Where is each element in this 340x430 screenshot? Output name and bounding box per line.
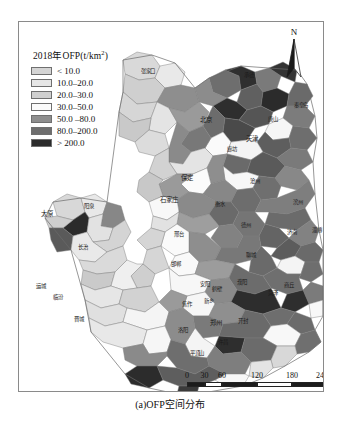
legend-label: 80.0–200.0 [57, 126, 98, 136]
legend-swatch [31, 103, 52, 112]
legend-title-tail: ) [105, 51, 108, 61]
legend-label: 50.0 –80.0 [57, 114, 95, 124]
scale-tick-label: 30 [201, 371, 209, 380]
place-label: 北京 [200, 115, 212, 124]
place-label: 滨州 [293, 198, 303, 206]
map-frame: 太原阳泉长治晋城运城临汾张家口北京天津承德唐山秦皇岛保定廊坊沧州石家庄衡水邢台邯… [18, 21, 324, 392]
legend-item[interactable]: 10.0–20.0 [31, 77, 108, 89]
place-label: 长治 [78, 243, 88, 251]
place-label: 新乡 [204, 297, 214, 305]
scale-bar-segment [187, 382, 205, 387]
legend-item[interactable]: 50.0 –80.0 [31, 113, 108, 125]
map-legend: 2018年OFP(t/km2) < 10.010.0–20.020.0–30.0… [31, 48, 108, 149]
legend-label: > 200.0 [57, 138, 85, 148]
legend-label: 30.0–50.0 [57, 102, 93, 112]
place-label: 济南 [287, 228, 297, 236]
legend-item[interactable]: 30.0–50.0 [31, 101, 108, 113]
scale-tick-label: 60 [218, 371, 226, 380]
north-arrow-icon [281, 37, 307, 79]
legend-swatch [31, 139, 52, 148]
legend-item[interactable]: > 200.0 [31, 137, 108, 149]
legend-item[interactable]: 80.0–200.0 [31, 125, 108, 137]
legend-swatch [31, 115, 52, 124]
scale-bar-labels: 03060120180240km [187, 371, 324, 382]
legend-title: 2018年OFP(t/km2) [33, 48, 108, 62]
place-label: 焦作 [182, 300, 192, 308]
scale-tick-label: 0 [185, 371, 189, 380]
scale-bar: 03060120180240km [187, 371, 324, 387]
place-label: 太原 [41, 209, 53, 218]
place-label: 阳泉 [84, 202, 94, 210]
place-label: 承德 [244, 71, 254, 79]
place-label: 运城 [36, 282, 46, 290]
place-label: 平顶山 [190, 349, 204, 357]
place-label: 晋城 [74, 315, 84, 323]
scale-tick-label: 180 [286, 371, 298, 380]
place-label: 临汾 [53, 293, 63, 301]
scale-bar-segment [222, 382, 257, 387]
legend-label: 20.0–30.0 [57, 90, 93, 100]
scale-tick-label: 120 [251, 371, 263, 380]
place-label: 聊城 [246, 251, 256, 259]
place-label: 沧州 [250, 177, 260, 185]
place-label: 淄博 [312, 226, 322, 234]
scale-tick-label: 240km [316, 371, 324, 380]
north-letter: N [281, 27, 307, 37]
place-label: 洛阳 [178, 326, 188, 334]
legend-swatch [31, 79, 52, 88]
place-label: 天津 [246, 134, 258, 143]
place-label: 濮阳 [237, 278, 247, 286]
place-label: 廊坊 [227, 145, 237, 153]
place-label: 安阳 [200, 280, 210, 288]
legend-swatch [31, 67, 52, 76]
county-polygon[interactable] [289, 126, 317, 150]
legend-rows: < 10.010.0–20.020.0–30.030.0–50.050.0 –8… [31, 65, 108, 149]
scale-bar-segment [257, 382, 292, 387]
place-label: 郑州 [210, 318, 222, 327]
legend-label: < 10.0 [57, 66, 80, 76]
place-label: 石家庄 [160, 195, 177, 204]
scale-bar-segments [187, 382, 324, 387]
place-label: 唐山 [268, 115, 278, 123]
place-label: 商丘 [284, 281, 294, 289]
legend-item[interactable]: < 10.0 [31, 65, 108, 77]
legend-label: 10.0–20.0 [57, 78, 93, 88]
place-label: 鹤壁 [212, 285, 222, 293]
place-label: 邯郸 [171, 260, 181, 268]
place-label: 开封 [238, 317, 248, 325]
north-arrow: N [281, 27, 307, 81]
place-label: 德州 [241, 221, 251, 229]
place-label: 衡水 [215, 200, 225, 208]
legend-swatch [31, 127, 52, 136]
figure-root: 太原阳泉长治晋城运城临汾张家口北京天津承德唐山秦皇岛保定廊坊沧州石家庄衡水邢台邯… [0, 0, 340, 430]
place-label: 保定 [181, 173, 193, 182]
figure-caption: (a)OFP空间分布 [0, 396, 340, 411]
legend-item[interactable]: 20.0–30.0 [31, 89, 108, 101]
place-label: 张家口 [141, 67, 155, 75]
legend-title-main: 2018年OFP(t/km [33, 51, 101, 61]
place-label: 许昌 [218, 338, 228, 346]
place-label: 秦皇岛 [294, 101, 308, 109]
place-label: 邢台 [174, 230, 184, 238]
scale-bar-segment [292, 382, 324, 387]
scale-bar-segment [205, 382, 223, 387]
legend-swatch [31, 91, 52, 100]
county-polygon[interactable] [143, 326, 171, 354]
place-label: 菏泽 [268, 289, 278, 297]
